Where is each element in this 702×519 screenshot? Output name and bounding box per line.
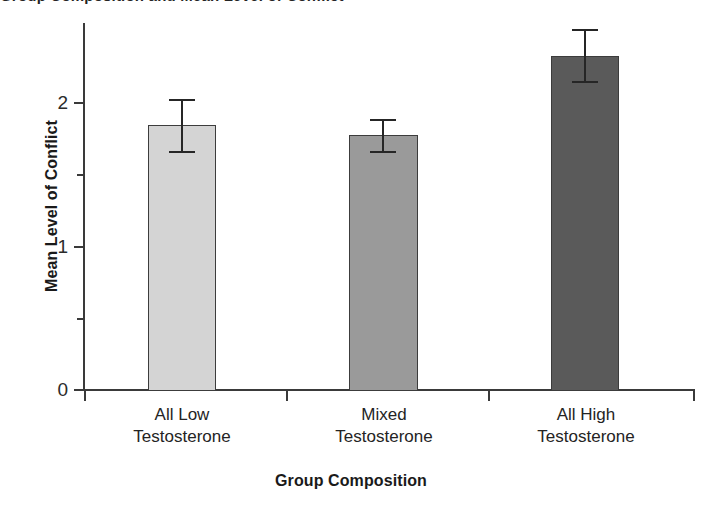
error-stem-1 xyxy=(181,99,183,153)
bar-all-low-testosterone xyxy=(148,125,216,391)
x-tick-div-1 xyxy=(286,390,288,401)
error-cap-bottom-3 xyxy=(572,81,598,83)
x-category-label-all-low-line1: All Low xyxy=(112,404,252,426)
y-minor-tick-1-5 xyxy=(77,174,84,176)
x-category-label-all-high-line2: Testosterone xyxy=(516,426,656,448)
x-tick-end xyxy=(693,390,695,401)
bar-mixed-testosterone xyxy=(349,135,418,391)
x-category-label-all-high: All High Testosterone xyxy=(516,404,656,449)
x-category-label-all-low: All Low Testosterone xyxy=(112,404,252,449)
x-axis-title: Group Composition xyxy=(0,472,702,490)
x-category-label-all-low-line2: Testosterone xyxy=(112,426,252,448)
error-cap-bottom-2 xyxy=(370,151,396,153)
bar-chart-plot-area: 2 1 0 All Low Testosterone Mixed Testost… xyxy=(0,0,702,519)
x-tick-start xyxy=(84,390,86,401)
x-category-label-mixed-line2: Testosterone xyxy=(314,426,454,448)
y-tick-0 xyxy=(74,389,84,391)
y-tick-label-0: 0 xyxy=(57,380,68,399)
error-cap-bottom-1 xyxy=(169,151,195,153)
x-category-label-all-high-line1: All High xyxy=(516,404,656,426)
y-axis-line xyxy=(83,23,85,391)
y-tick-1 xyxy=(74,246,84,248)
error-stem-3 xyxy=(584,29,586,83)
x-category-label-mixed-line1: Mixed xyxy=(314,404,454,426)
y-tick-2 xyxy=(74,102,84,104)
x-tick-div-2 xyxy=(488,390,490,401)
bar-all-high-testosterone xyxy=(551,56,619,391)
y-minor-tick-0-5 xyxy=(77,318,84,320)
x-category-label-mixed: Mixed Testosterone xyxy=(314,404,454,449)
error-stem-2 xyxy=(382,119,384,153)
y-axis-title: Mean Level of Conflict xyxy=(43,76,61,336)
